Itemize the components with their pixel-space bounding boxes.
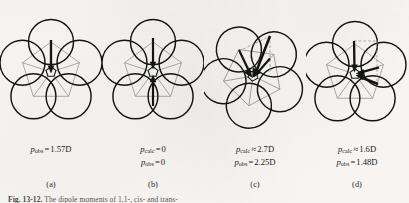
panel-d-caption: pcalc≈1.6D pobs=1.48D — [306, 144, 408, 170]
panel-b-rel-1: = — [155, 144, 162, 154]
panel-a: pobs=1.57D (a) — [0, 0, 102, 203]
panel-b-diagram — [102, 2, 204, 136]
panel-c-letter: (c) — [204, 180, 306, 189]
panel-b: pcalc=0 pobs=0 (b) — [102, 0, 204, 203]
panel-c-diagram — [204, 2, 306, 136]
figure-caption-text: The dipole moments of 1,1-, cis- and tra… — [44, 195, 178, 203]
dipole-vector-d-resultant — [356, 73, 378, 84]
panel-c-caption: pcalc≈2.7D pobs=2.25D — [204, 144, 306, 170]
panel-b-value-1: 0 — [162, 144, 166, 154]
panel-b-value-2: 0 — [161, 157, 165, 167]
figure-root: pobs=1.57D (a) — [0, 0, 409, 203]
panel-a-letter: (a) — [0, 180, 102, 189]
panel-d-value-1: 1.6D — [359, 144, 376, 154]
panel-c-value-1: 2.7D — [257, 144, 274, 154]
panel-c-sub-1: calc — [240, 148, 250, 154]
panel-c: pcalc≈2.7D pobs=2.25D (c) — [204, 0, 306, 203]
panel-a-caption: pobs=1.57D — [0, 144, 102, 157]
panel-b-sub-2: obs — [145, 161, 154, 167]
panel-d-sub-1: calc — [342, 148, 352, 154]
panel-d: pcalc≈1.6D pobs=1.48D (d) — [306, 0, 408, 203]
panel-b-sub-1: calc — [144, 148, 154, 154]
panel-b-letter: (b) — [102, 180, 204, 189]
panel-d-diagram — [306, 2, 408, 136]
panel-d-letter: (d) — [306, 180, 408, 189]
figure-caption-label: Fig. 13-12. — [8, 195, 43, 203]
figure-caption: Fig. 13-12. The dipole moments of 1,1-, … — [8, 195, 178, 203]
panel-b-caption: pcalc=0 pobs=0 — [102, 144, 204, 170]
dipole-vector-c-1 — [239, 50, 252, 78]
panel-d-value-2: 1.48D — [356, 157, 377, 167]
panel-a-diagram — [0, 2, 102, 136]
panel-c-value-2: 2.25D — [254, 157, 275, 167]
panel-a-value: 1.57D — [50, 144, 71, 154]
panel-b-rel-2: = — [154, 157, 161, 167]
